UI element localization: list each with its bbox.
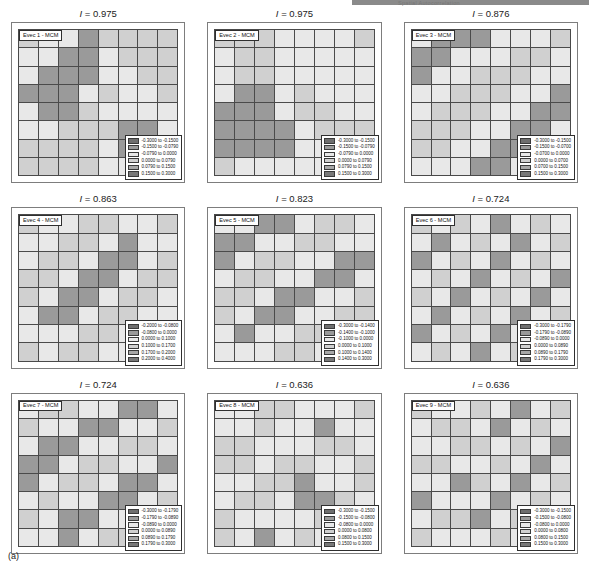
legend-swatch: [324, 152, 335, 157]
heatmap-cell: [451, 419, 471, 437]
heatmap-cell: [39, 288, 59, 306]
heatmap-cell: [511, 288, 531, 306]
heatmap-cell: [138, 288, 158, 306]
heatmap-cell: [235, 103, 255, 121]
legend-label: 0.0000 to 0.0890: [142, 529, 176, 534]
heatmap-cell: [451, 456, 471, 474]
moran-i-symbol: I: [276, 379, 279, 390]
moran-i-value-4: 0.863: [93, 193, 117, 204]
heatmap-cell: [432, 252, 452, 270]
heatmap-cell: [451, 325, 471, 343]
heatmap-cell: [491, 288, 511, 306]
legend-swatch: [520, 337, 531, 342]
panel-title-6: I = 0.724: [393, 193, 589, 204]
legend-label: 0.1500 to 0.3000: [534, 542, 568, 547]
heatmap-cell: [451, 252, 471, 270]
moran-i-value-7: 0.724: [93, 379, 117, 390]
heatmap-cell: [235, 343, 255, 361]
heatmap-cell: [315, 437, 335, 455]
legend-swatch: [128, 337, 139, 342]
legend-swatch: [520, 145, 531, 150]
heatmap-cell: [295, 510, 315, 528]
heatmap-cell: [511, 419, 531, 437]
legend-swatch: [324, 138, 335, 143]
heatmap-cell: [315, 85, 335, 103]
heatmap-cell: [491, 121, 511, 139]
legend-label: -0.2000 to -0.0800: [142, 324, 179, 329]
heatmap-cell: [451, 288, 471, 306]
heatmap-cell: [491, 401, 511, 419]
heatmap-cell: [491, 529, 511, 547]
legend-label: 0.1700 to 0.2000: [142, 351, 176, 356]
heatmap-cell: [79, 510, 99, 528]
heatmap-cell: [158, 67, 178, 85]
legend-row: -0.2000 to -0.0800: [128, 323, 179, 330]
heatmap-cell: [315, 270, 335, 288]
legend-row: -0.3000 to -0.1500: [520, 508, 571, 515]
heatmap-cell: [335, 288, 355, 306]
heatmap-cell: [295, 140, 315, 158]
heatmap-cell: [295, 85, 315, 103]
heatmap-cell: [59, 252, 79, 270]
heatmap-cell: [79, 529, 99, 547]
legend-row: 0.0800 to 0.1500: [324, 535, 375, 542]
legend-row: -0.3000 to -0.1790: [520, 323, 571, 330]
heatmap-cell: [275, 510, 295, 528]
heatmap-cell: [551, 270, 571, 288]
heatmap-cell: [531, 67, 551, 85]
plot-frame-4: Evec 4 - MCM-0.2000 to -0.0800-0.0800 to…: [11, 207, 185, 368]
heatmap-cell: [531, 474, 551, 492]
legend-7: -0.3000 to -0.1790-0.1790 to -0.0890-0.0…: [125, 505, 183, 551]
heatmap-cell: [59, 419, 79, 437]
heatmap-cell: [99, 252, 119, 270]
heatmap-cell: [451, 474, 471, 492]
moran-i-value-2: 0.975: [289, 8, 313, 19]
evec-tag-3: Evec 3 - MCM: [412, 30, 455, 41]
heatmap-cell: [295, 419, 315, 437]
legend-label: 0.1000 to 0.1400: [338, 351, 372, 356]
heatmap-cell: [119, 401, 139, 419]
heatmap-cell: [99, 307, 119, 325]
heatmap-cell: [255, 158, 275, 176]
heatmap-cell: [491, 67, 511, 85]
legend-label: 0.1400 to 0.3000: [338, 357, 372, 362]
heatmap-cell: [315, 456, 335, 474]
heatmap-cell: [215, 252, 235, 270]
legend-swatch: [324, 522, 335, 527]
heatmap-cell: [255, 270, 275, 288]
heatmap-cell: [432, 510, 452, 528]
heatmap-cell: [19, 492, 39, 510]
heatmap-cell: [295, 121, 315, 139]
heatmap-cell: [119, 419, 139, 437]
plot-frame-6: Evec 6 - MCM-0.3000 to -0.1790-0.1790 to…: [404, 207, 578, 368]
heatmap-cell: [255, 437, 275, 455]
heatmap-cell: [412, 140, 432, 158]
heatmap-cell: [432, 343, 452, 361]
heatmap-cell: [275, 103, 295, 121]
heatmap-cell: [235, 437, 255, 455]
heatmap-cell: [79, 456, 99, 474]
heatmap-cell: [99, 121, 119, 139]
heatmap-cell: [412, 234, 432, 252]
plot-frame-9: Evec 9 - MCM-0.3000 to -0.1500-0.1500 to…: [404, 393, 578, 554]
evec-tag-7: Evec 7 - MCM: [19, 401, 62, 412]
heatmap-cell: [432, 48, 452, 66]
heatmap-cell: [59, 474, 79, 492]
legend-row: 0.1500 to 0.3000: [520, 171, 571, 178]
heatmap-cell: [412, 67, 432, 85]
heatmap-cell: [432, 529, 452, 547]
panel-grid: I = 0.975Evec 1 - MCM-0.3000 to -0.1500-…: [0, 6, 589, 562]
legend-row: -0.1790 to -0.0890: [520, 330, 571, 337]
heatmap-cell: [99, 30, 119, 48]
legend-row: 0.1500 to 0.3000: [520, 541, 571, 548]
heatmap-cell: [39, 325, 59, 343]
heatmap-cell: [158, 85, 178, 103]
heatmap-cell: [335, 103, 355, 121]
legend-label: 0.0000 to 0.0700: [534, 159, 568, 164]
evec-tag-9: Evec 9 - MCM: [412, 401, 455, 412]
heatmap-cell: [471, 474, 491, 492]
heatmap-cell: [471, 343, 491, 361]
moran-i-symbol: I: [276, 8, 279, 19]
heatmap-cell: [119, 48, 139, 66]
heatmap-cell: [531, 103, 551, 121]
